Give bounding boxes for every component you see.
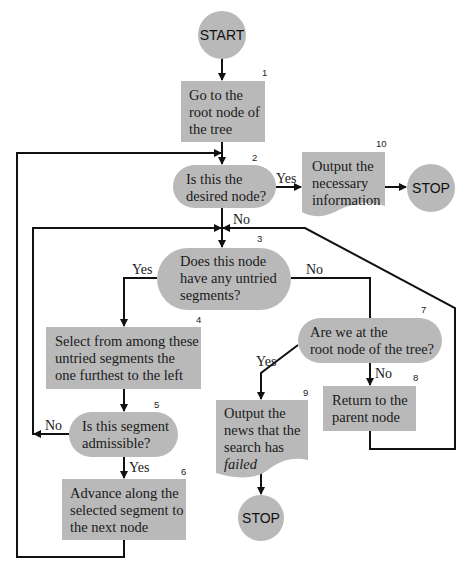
node-5-number: 5 [154,399,159,410]
node-6-line-3: the next node [70,519,148,535]
node-3-line-2: have any untried [180,270,277,286]
node-1-line-3: the tree [189,121,232,137]
node-2-number: 2 [252,152,257,163]
node-1-line-1: Go to the [189,87,243,103]
node-5-line-1: Is this segment [82,418,169,434]
node-3-line-3: segments? [180,287,240,303]
node-6-number: 6 [181,466,186,477]
start-label: START [200,27,245,43]
node-7-number: 7 [421,304,426,315]
node-8-line-1: Return to the [332,392,408,408]
node-1-number: 1 [262,67,267,78]
node-7-line-2: root node of the tree? [310,341,434,357]
node-10-number: 10 [376,138,387,149]
stop-bottom-label: STOP [242,510,280,526]
node-10-line-2: necessary [312,175,369,191]
node-9-line-4: failed [224,456,258,472]
node-6-line-1: Advance along the [70,485,179,501]
node-3-line-1: Does this node [180,253,266,269]
node-3-decision: 3 Does this node have any untried segmen… [157,233,291,310]
node-6-line-2: selected segment to [70,502,184,518]
node-3-number: 3 [257,233,262,244]
node-stop-right: STOP [407,164,455,212]
flowchart-canvas: Yes No Yes No No Yes Yes No START 1 Go t… [0,0,468,571]
node-10-line-3: information [312,192,381,208]
node-2-line-1: Is this the [186,171,242,187]
node-start: START [198,11,246,59]
edge-3-to-4 [124,278,157,326]
edge-label-3-yes: Yes [132,262,152,277]
edge-label-7-no: No [375,366,392,381]
node-1-process: 1 Go to the root node of the tree [181,67,267,142]
edge-label-7-yes: Yes [256,354,276,369]
node-10-document: 10 Output the necessary information [302,138,387,216]
node-4-line-2: untried segments the [55,350,175,366]
edge-label-2-no: No [233,212,250,227]
edge-3-to-7 [291,278,370,318]
node-4-line-3: one furthest to the left [55,367,183,383]
node-9-line-2: news that the [224,422,301,438]
node-8-number: 8 [413,372,418,383]
node-9-line-1: Output the [224,405,286,421]
stop-right-label: STOP [412,180,450,196]
node-2-line-2: desired node? [186,188,266,204]
node-stop-bottom: STOP [238,495,284,541]
edge-label-3-no: No [306,262,323,277]
node-5-line-2: admissible? [82,435,150,451]
node-1-line-2: root node of [189,104,260,120]
edge-label-5-yes: Yes [129,460,149,475]
node-9-document: 9 Output the news that the search has fa… [216,387,308,477]
node-7-line-1: Are we at the [310,324,388,340]
node-4-line-1: Select from among these [55,333,199,349]
edge-label-2-yes: Yes [276,171,296,186]
node-10-line-1: Output the [312,158,374,174]
node-9-line-3: search has [224,439,284,455]
node-2-decision: 2 Is this the desired node? [173,152,276,208]
node-9-number: 9 [303,387,308,398]
node-8-line-2: parent node [332,409,400,425]
edge-label-5-no: No [45,418,62,433]
node-4-number: 4 [196,314,201,325]
